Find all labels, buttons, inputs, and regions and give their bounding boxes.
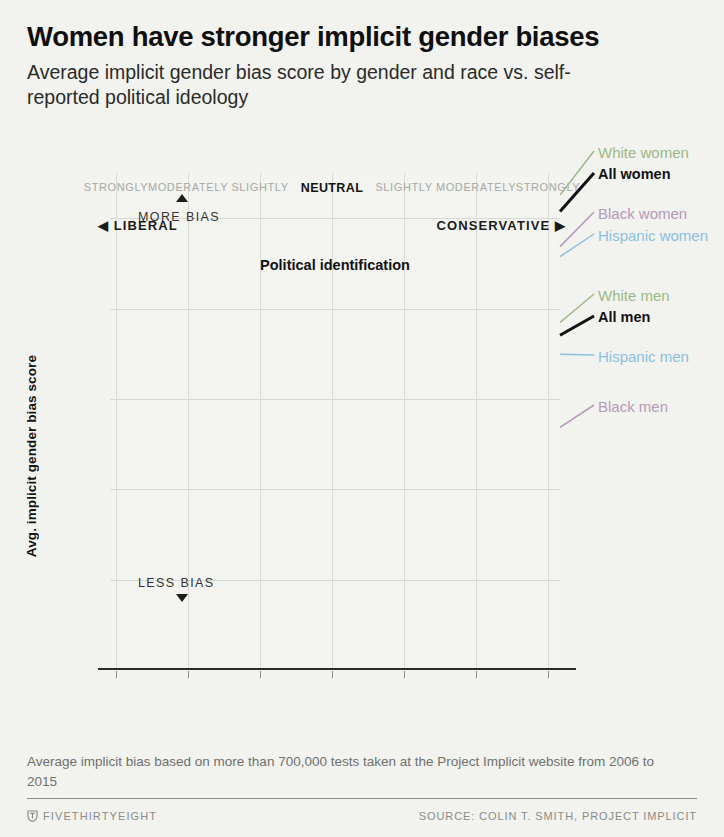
gridline: [476, 173, 477, 670]
legend-label: All men: [598, 310, 650, 325]
gridline: [260, 173, 261, 670]
x-axis-tick: [476, 671, 477, 678]
x-axis-tick-label: SLIGHTLY: [375, 181, 432, 193]
legend: White womenAll womenBlack womenHispanic …: [566, 140, 724, 637]
x-axis-tick-label: MODERATELY: [148, 181, 228, 193]
x-axis-tick-label: NEUTRAL: [301, 181, 364, 195]
legend-label: White women: [598, 145, 689, 160]
x-axis-tick-label: SLIGHTLY: [231, 181, 288, 193]
gridline: [404, 173, 405, 670]
x-axis-title: Political identification: [110, 257, 560, 273]
y-axis-title: Avg. implicit gender bias score: [24, 355, 39, 557]
page-subtitle: Average implicit gender bias score by ge…: [27, 60, 587, 110]
x-axis-tick: [404, 671, 405, 678]
gridline: [110, 309, 560, 310]
gridline: [188, 173, 189, 670]
footnote: Average implicit bias based on more than…: [27, 752, 667, 791]
gridline: [116, 173, 117, 670]
legend-label: Hispanic women: [598, 228, 708, 243]
gridline: [110, 489, 560, 490]
triangle-down-icon: [176, 594, 188, 602]
x-axis-tick-label: MODERATELY: [436, 181, 516, 193]
x-axis-tick: [260, 671, 261, 678]
legend-leader-line: [560, 151, 594, 195]
legend-leader-line: [560, 173, 594, 211]
legend-label: Black women: [598, 206, 687, 221]
legend-leader-line: [560, 405, 594, 427]
page-title: Women have stronger implicit gender bias…: [27, 22, 697, 53]
footer: Average implicit bias based on more than…: [27, 752, 697, 791]
x-axis-tick: [548, 671, 549, 678]
legend-label: Hispanic men: [598, 349, 689, 364]
gridline: [332, 173, 333, 670]
x-axis-tick-label: STRONGLY: [84, 181, 149, 193]
chart-container: Avg. implicit gender bias score 0.00.10.…: [0, 140, 724, 740]
x-axis-tick: [188, 671, 189, 678]
legend-label: Black men: [598, 399, 668, 414]
fivethirtyeight-logo-icon: [27, 810, 38, 822]
fivethirtyeight-brand: FIVETHIRTYEIGHT: [27, 810, 157, 822]
footer-row: FIVETHIRTYEIGHT SOURCE: COLIN T. SMITH, …: [27, 810, 697, 828]
less-bias-label: LESS BIAS: [138, 576, 215, 590]
liberal-direction-label: ◀ LIBERAL: [98, 218, 178, 233]
legend-leader-line: [560, 212, 594, 247]
legend-leader-line: [560, 354, 594, 355]
x-axis-tick: [332, 671, 333, 678]
legend-label: White men: [598, 288, 670, 303]
footer-divider: [27, 798, 697, 799]
gridline: [110, 399, 560, 400]
gridline: [548, 173, 549, 670]
infographic-page: Women have stronger implicit gender bias…: [0, 0, 724, 837]
triangle-up-icon: [176, 194, 188, 202]
plot-area: 0.00.10.20.30.40.5 MORE BIAS LESS BIAS S…: [110, 173, 560, 670]
conservative-direction-label: CONSERVATIVE ▶: [437, 218, 566, 233]
legend-leader-line: [560, 234, 594, 257]
x-axis-line: [98, 668, 576, 670]
header: Women have stronger implicit gender bias…: [27, 22, 697, 110]
x-axis-tick: [116, 671, 117, 678]
legend-label: All women: [598, 167, 671, 182]
brand-label: FIVETHIRTYEIGHT: [43, 810, 157, 822]
source-label: SOURCE: COLIN T. SMITH, PROJECT IMPLICIT: [419, 810, 697, 822]
